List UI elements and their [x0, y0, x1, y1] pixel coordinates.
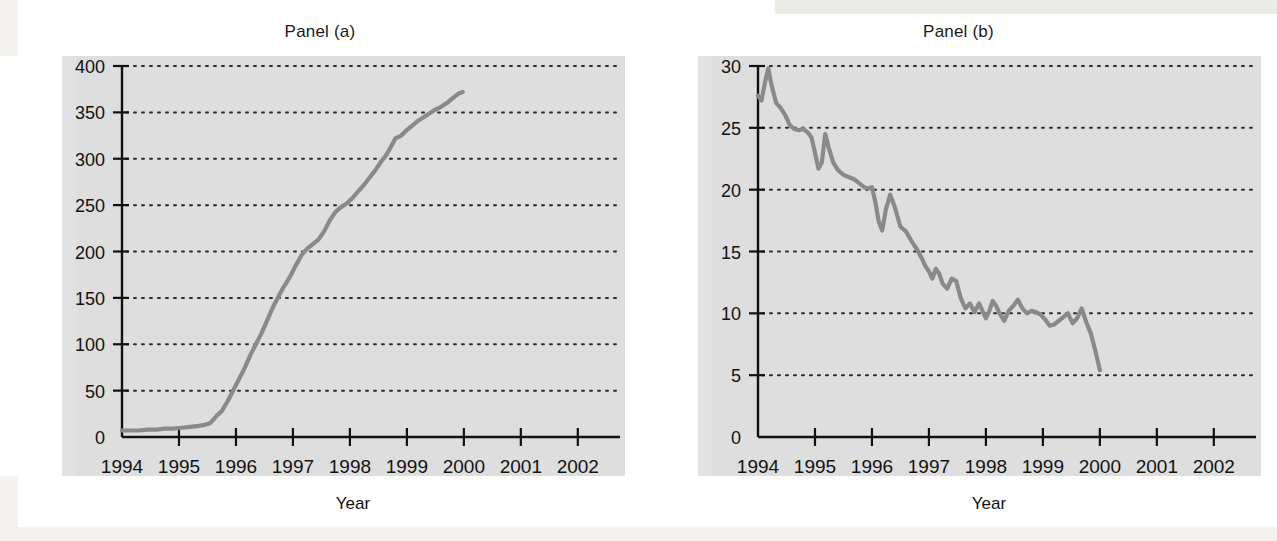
panel-a: Panel (a) Sweep Accounts ($ billions) 05…: [0, 0, 640, 541]
panel-b-data-line: [758, 68, 1100, 370]
panel-a-x-tick-labels: 199419951996199719981999200020012002: [101, 456, 599, 477]
panel-a-gridlines: [126, 66, 622, 391]
panel-a-data-line: [122, 92, 463, 431]
panel-a-x-axis-label: Year: [118, 494, 588, 514]
y-tick-label: 30: [721, 57, 741, 77]
panel-a-tick-marks: [113, 66, 578, 446]
panel-b-plot-area: 051015202530 199419951996199719981999200…: [640, 0, 1277, 541]
y-tick-label: 250: [75, 196, 105, 216]
x-tick-label: 1998: [965, 456, 1007, 477]
x-tick-label: 2002: [1193, 456, 1235, 477]
x-tick-label: 2001: [1136, 456, 1178, 477]
y-tick-label: 10: [721, 304, 741, 324]
y-tick-label: 20: [721, 181, 741, 201]
x-tick-label: 2000: [443, 456, 485, 477]
panel-b-y-tick-labels: 051015202530: [721, 57, 741, 448]
y-tick-label: 5: [731, 366, 741, 386]
panel-b-x-axis-label: Year: [754, 494, 1224, 514]
y-tick-label: 0: [95, 428, 105, 448]
x-tick-label: 1999: [1022, 456, 1064, 477]
x-tick-label: 1995: [794, 456, 836, 477]
y-tick-label: 300: [75, 150, 105, 170]
x-tick-label: 2002: [557, 456, 599, 477]
y-tick-label: 15: [721, 243, 741, 263]
x-tick-label: 1997: [272, 456, 314, 477]
x-tick-label: 1997: [908, 456, 950, 477]
x-tick-label: 1998: [329, 456, 371, 477]
panel-b-x-tick-labels: 199419951996199719981999200020012002: [737, 456, 1235, 477]
y-tick-label: 350: [75, 103, 105, 123]
panel-b: Panel (b) Reserve Balances in Federal Re…: [640, 0, 1277, 541]
panel-b-tick-marks: [749, 66, 1214, 446]
x-tick-label: 2000: [1079, 456, 1121, 477]
x-tick-label: 1996: [851, 456, 893, 477]
y-tick-label: 50: [85, 382, 105, 402]
x-tick-label: 1996: [215, 456, 257, 477]
y-tick-label: 200: [75, 243, 105, 263]
panel-a-y-tick-labels: 050100150200250300350400: [75, 57, 105, 448]
y-tick-label: 100: [75, 335, 105, 355]
y-tick-label: 0: [731, 428, 741, 448]
panel-a-plot-area: 050100150200250300350400 199419951996199…: [0, 0, 640, 541]
x-tick-label: 1995: [158, 456, 200, 477]
y-tick-label: 25: [721, 119, 741, 139]
x-tick-label: 2001: [500, 456, 542, 477]
y-tick-label: 150: [75, 289, 105, 309]
panel-b-gridlines: [762, 66, 1258, 375]
x-tick-label: 1999: [386, 456, 428, 477]
y-tick-label: 400: [75, 57, 105, 77]
x-tick-label: 1994: [101, 456, 144, 477]
two-panel-figure: Panel (a) Sweep Accounts ($ billions) 05…: [0, 0, 1277, 541]
x-tick-label: 1994: [737, 456, 780, 477]
